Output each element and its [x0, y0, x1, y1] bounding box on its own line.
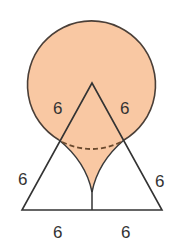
label-upper-left: 6	[53, 99, 62, 118]
geometry-figure: 6 6 6 6 6 6	[0, 0, 175, 246]
label-base-left: 6	[53, 223, 62, 242]
label-base-right: 6	[121, 223, 130, 242]
label-left-side: 6	[18, 170, 27, 189]
label-upper-right: 6	[120, 99, 129, 118]
label-right-side: 6	[155, 172, 164, 191]
